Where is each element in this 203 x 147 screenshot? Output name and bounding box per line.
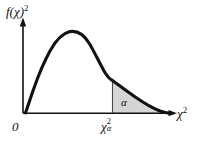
origin-tick-label: 0	[12, 120, 19, 133]
x-axis-label: χ2	[177, 106, 187, 120]
density-curve	[26, 31, 171, 113]
y-axis-label: f(χ)2	[6, 4, 28, 18]
critical-value-stack: χ2α	[101, 120, 107, 133]
critical-value-label: χ2α	[101, 120, 107, 133]
y-axis-label-fn: f(	[6, 4, 14, 19]
y-axis-label-exponent: 2	[24, 3, 28, 13]
tail-area-label: α	[121, 97, 127, 108]
x-axis-label-exponent: 2	[183, 105, 187, 115]
chi-squared-distribution-figure: f(χ)2 χ2 0 χ2α α	[0, 0, 203, 147]
critical-value-subscript: α	[107, 124, 112, 133]
